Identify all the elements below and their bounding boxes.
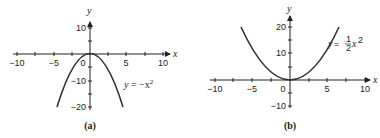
tick-y: −10 xyxy=(271,101,286,111)
tick-y: −10 xyxy=(71,76,86,86)
panel-a: −10 −5 0 5 10 10 −10 −20 x y y = −x2 (a) xyxy=(9,5,178,132)
svg-text:2: 2 xyxy=(358,35,363,45)
tick-x: −5 xyxy=(247,84,257,94)
tick-x: 0 xyxy=(280,84,285,94)
x-axis-label: x xyxy=(372,74,378,85)
tick-x: −10 xyxy=(207,84,222,94)
svg-text:x: x xyxy=(351,38,357,49)
svg-text:2: 2 xyxy=(346,43,351,53)
svg-text:y: y xyxy=(327,38,333,49)
figure: −10 −5 0 5 10 10 −10 −20 x y y = −x2 (a)… xyxy=(0,0,380,138)
equation-label-b: y = 1 2 x 2 xyxy=(327,34,363,53)
y-axis-label: y xyxy=(86,5,92,16)
caption-a: (a) xyxy=(84,120,96,132)
tick-y: 20 xyxy=(276,22,286,32)
tick-x: 5 xyxy=(324,84,329,94)
equation-label-a: y = −x2 xyxy=(123,78,154,90)
tick-x: 0 xyxy=(80,58,85,68)
tick-x: 10 xyxy=(158,58,168,68)
tick-x: −5 xyxy=(49,58,59,68)
tick-y: 10 xyxy=(276,48,286,58)
tick-y: −20 xyxy=(71,102,86,112)
panel-b: −10 −5 0 5 10 20 10 −10 x y y = 1 2 x 2 … xyxy=(207,3,378,132)
tick-x: 5 xyxy=(123,58,128,68)
x-axis-label: x xyxy=(172,48,178,59)
tick-y: 10 xyxy=(76,23,86,33)
caption-b: (b) xyxy=(284,120,296,132)
svg-text:=: = xyxy=(334,39,339,49)
tick-x: 10 xyxy=(360,84,370,94)
y-axis-label: y xyxy=(286,3,292,14)
tick-x: −10 xyxy=(9,58,24,68)
